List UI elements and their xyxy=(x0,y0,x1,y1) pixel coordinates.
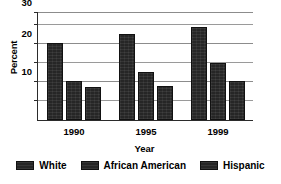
y-tickmark-15 xyxy=(34,62,38,63)
y-tick-label-20: 20 xyxy=(21,27,32,38)
bar-group-1990: 1990 xyxy=(44,13,104,120)
x-tick-label-1990: 1990 xyxy=(63,126,84,137)
bar-white-1995[interactable] xyxy=(119,34,135,120)
legend-label-white: White xyxy=(39,160,66,171)
bar-hispanic-1990[interactable] xyxy=(85,87,101,120)
legend-item-african-american[interactable]: African American xyxy=(81,160,186,171)
x-axis-title: Year xyxy=(37,143,252,154)
y-tickmark-5 xyxy=(34,100,38,101)
bar-hispanic-1995[interactable] xyxy=(157,86,173,120)
x-tick-label-1995: 1995 xyxy=(135,126,156,137)
legend-label-african-american: African American xyxy=(104,160,186,171)
legend-item-hispanic[interactable]: Hispanic xyxy=(200,160,265,171)
y-axis-title: Percent xyxy=(8,28,19,88)
y-tick-label-10: 10 xyxy=(21,65,32,76)
legend-swatch-icon-hispanic xyxy=(200,161,218,170)
bar-group-1999: 1999 xyxy=(188,13,248,120)
y-tick-label-30: 30 xyxy=(21,0,32,8)
chart-legend: White African American Hispanic xyxy=(0,160,281,171)
legend-swatch-icon-african-american xyxy=(81,161,99,170)
bar-chart-figure: Percent 10 20 30 1990 1995 xyxy=(0,0,281,184)
y-tickmark-20 xyxy=(34,43,38,44)
y-tickmark-25 xyxy=(34,24,38,25)
plot-area: 10 20 30 1990 1995 1999 xyxy=(37,13,253,121)
y-tickmark-10 xyxy=(34,81,38,82)
bar-african-american-1990[interactable] xyxy=(66,81,82,120)
bar-african-american-1999[interactable] xyxy=(210,63,226,120)
bar-white-1999[interactable] xyxy=(191,27,207,120)
bar-group-1995: 1995 xyxy=(116,13,176,120)
x-tick-label-1999: 1999 xyxy=(207,126,228,137)
bar-african-american-1995[interactable] xyxy=(138,72,154,120)
bar-hispanic-1999[interactable] xyxy=(229,81,245,120)
legend-label-hispanic: Hispanic xyxy=(223,160,265,171)
legend-swatch-icon-white xyxy=(16,161,34,170)
legend-item-white[interactable]: White xyxy=(16,160,66,171)
y-tickmark-30 xyxy=(34,12,38,13)
bar-white-1990[interactable] xyxy=(47,43,63,120)
